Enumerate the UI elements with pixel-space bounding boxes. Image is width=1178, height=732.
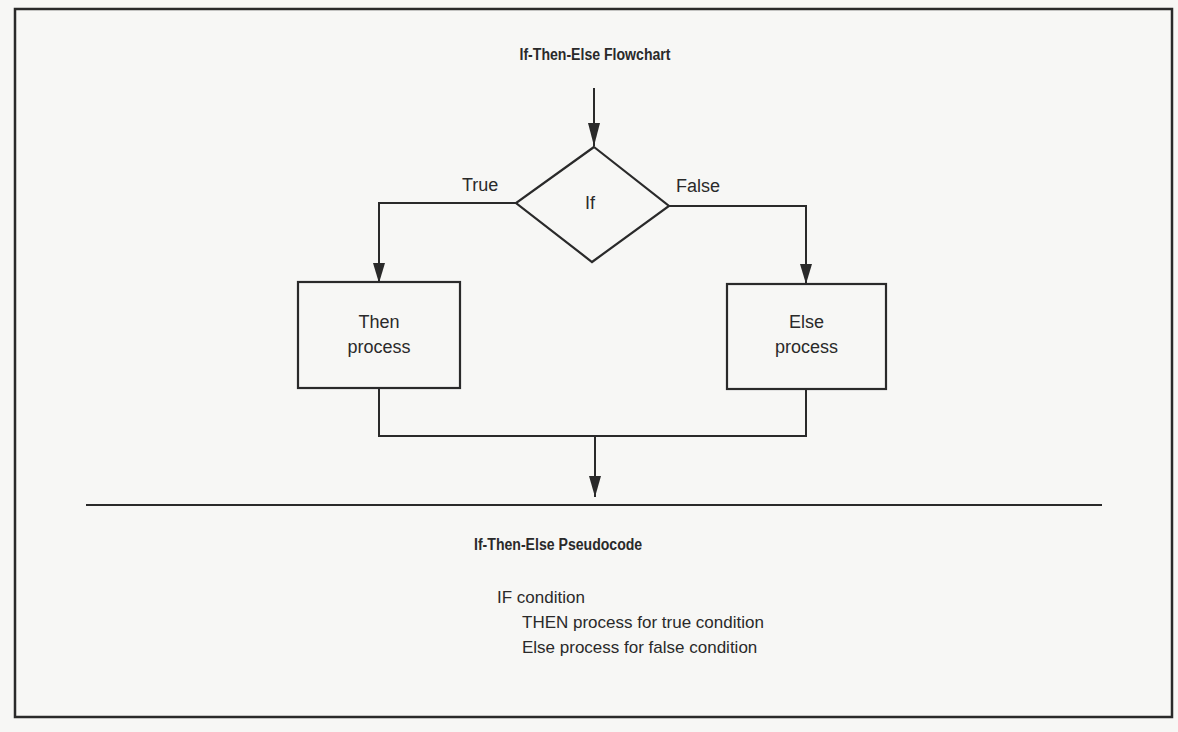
arrowhead-icon: [800, 264, 812, 284]
pseudocode-line: THEN process for true condition: [497, 610, 764, 635]
else-box-text: Else process: [727, 310, 886, 360]
join-line: [379, 388, 806, 436]
false-branch-line: [669, 206, 806, 283]
arrowhead-icon: [589, 476, 601, 497]
pseudocode-block: IF condition THEN process for true condi…: [497, 585, 764, 660]
arrowhead-icon: [373, 263, 385, 283]
else-line-1: Else: [727, 310, 886, 335]
decision-label: If: [585, 193, 595, 214]
pseudocode-title: If-Then-Else Pseudocode: [474, 536, 642, 554]
then-line-1: Then: [298, 310, 460, 335]
then-line-2: process: [298, 335, 460, 360]
flowchart-title: If-Then-Else Flowchart: [507, 46, 683, 64]
true-label: True: [462, 175, 498, 196]
true-branch-line: [379, 203, 516, 281]
then-box-text: Then process: [298, 310, 460, 360]
pseudocode-line: IF condition: [497, 585, 764, 610]
false-label: False: [676, 176, 720, 197]
arrowhead-icon: [588, 123, 600, 146]
pseudocode-line: Else process for false condition: [497, 635, 764, 660]
else-line-2: process: [727, 335, 886, 360]
